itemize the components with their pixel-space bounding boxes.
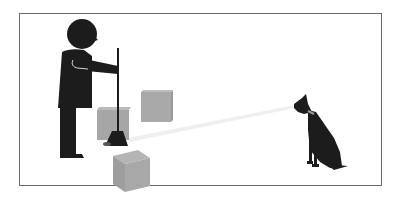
box-back-icon [141, 90, 173, 122]
box-front-icon [113, 150, 150, 192]
dog-icon [294, 94, 348, 170]
illustration [0, 0, 400, 199]
